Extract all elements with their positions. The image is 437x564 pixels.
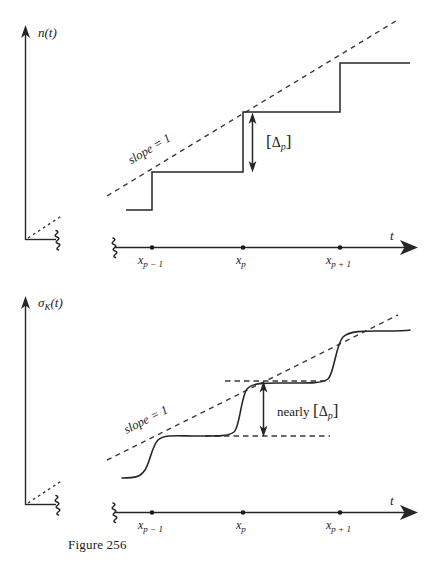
top-origin-break-squiggle — [55, 231, 60, 251]
bottom-y-axis-label: σK(t) — [38, 296, 63, 312]
top-tick-dot-xp-minus-1 — [150, 245, 155, 250]
bottom-t-axis-label: t — [390, 494, 394, 507]
top-t-axis-label: t — [390, 229, 394, 242]
bottom-smoothed-step-curve — [122, 330, 410, 478]
top-tick-sub-2: p + 1 — [331, 259, 351, 269]
bottom-origin-dotted-line — [28, 480, 63, 503]
figure-caption: Figure 256 — [68, 538, 127, 551]
bottom-delta-symbol: Δ — [319, 404, 328, 419]
top-y-axis-label-close-paren: ) — [52, 25, 56, 40]
top-y-axis-label: n(t) — [38, 26, 57, 39]
top-panel-group — [21, 21, 418, 258]
bottom-y-axis-label-close-paren: ) — [58, 295, 62, 310]
top-delta-annotation: [Δp] — [266, 133, 291, 152]
figure-drawing — [0, 0, 437, 564]
bottom-tick-sub-2: p + 1 — [331, 524, 351, 534]
bottom-delta-close-bracket: ] — [333, 401, 339, 420]
top-slope-reference-line — [107, 21, 396, 196]
bottom-tick-dot-xp-minus-1 — [150, 510, 155, 515]
bottom-delta-annotation: nearly [Δp] — [277, 402, 338, 421]
top-tick-dot-xp-plus-1 — [338, 245, 343, 250]
bottom-tick-dot-xp — [241, 510, 246, 515]
top-tick-dot-xp — [241, 245, 246, 250]
top-tick-label-xp-minus-1: xp − 1 — [138, 254, 163, 269]
bottom-tick-label-xp: xp — [236, 519, 246, 534]
top-delta-symbol: Δ — [272, 135, 281, 150]
bottom-tick-label-xp-minus-1: xp − 1 — [138, 519, 163, 534]
figure-container: n(t) slope = 1 [Δp] t xp − 1 xp xp + 1 σ… — [0, 0, 437, 564]
top-origin-dotted-line — [28, 215, 63, 238]
top-tick-label-xp: xp — [236, 254, 246, 269]
bottom-tick-dot-xp-plus-1 — [338, 510, 343, 515]
top-delta-close-bracket: ] — [286, 132, 292, 151]
bottom-tick-sub-0: p − 1 — [143, 524, 163, 534]
bottom-nearly-word: nearly — [277, 404, 309, 419]
top-tick-label-xp-plus-1: xp + 1 — [326, 254, 351, 269]
bottom-tick-sub-1: p — [241, 524, 246, 534]
bottom-origin-break-squiggle — [55, 496, 60, 516]
top-tick-sub-1: p — [241, 259, 246, 269]
bottom-tick-label-xp-plus-1: xp + 1 — [326, 519, 351, 534]
top-tick-sub-0: p − 1 — [143, 259, 163, 269]
bottom-panel-group — [21, 296, 418, 523]
bottom-slope-reference-line — [107, 315, 398, 460]
